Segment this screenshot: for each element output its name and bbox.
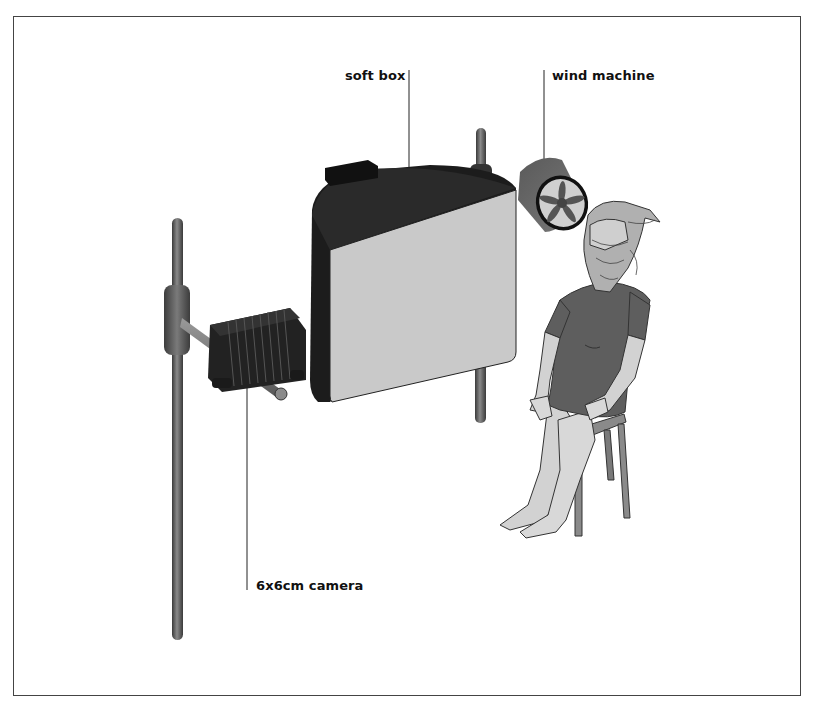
lighting-setup-illustration <box>0 0 813 710</box>
label-soft-box: soft box <box>345 68 406 83</box>
camera <box>208 308 306 392</box>
wind-machine <box>518 158 595 237</box>
soft-box <box>310 160 516 402</box>
camera-stand <box>164 218 287 640</box>
label-wind-machine: wind machine <box>552 68 655 83</box>
label-camera: 6x6cm camera <box>256 578 363 593</box>
